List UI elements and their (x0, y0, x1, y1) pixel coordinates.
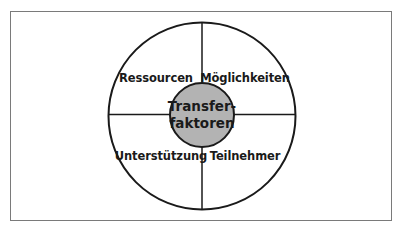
quadrant-label-ressourcen: Ressourcen (119, 71, 193, 85)
quadrant-label-unterstuetzung: Unterstützung (115, 149, 208, 163)
quadrant-label-teilnehmer: Teilnehmer (210, 149, 281, 163)
center-label-line1: Transfer- (168, 98, 236, 115)
center-label-line2: faktoren (168, 115, 236, 132)
center-label: Transfer- faktoren (168, 98, 236, 132)
quadrant-label-moeglichkeiten: Möglichkeiten (200, 71, 290, 85)
